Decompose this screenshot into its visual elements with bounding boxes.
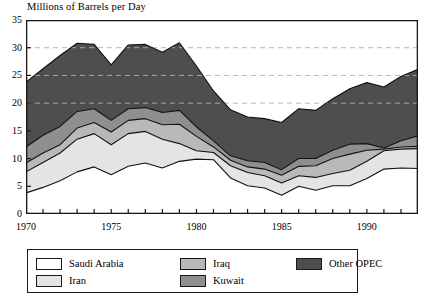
legend-item-iraq: Iraq — [180, 257, 230, 270]
y-tick-label-15: 15 — [0, 126, 22, 136]
legend-swatch-iraq — [180, 258, 206, 270]
plot-area — [26, 20, 418, 214]
x-tick-label-1985: 1985 — [262, 222, 302, 232]
legend-swatch-kuwait — [180, 275, 206, 287]
y-tick-label-25: 25 — [0, 70, 22, 80]
y-tick-label-30: 30 — [0, 43, 22, 53]
legend-item-kuwait: Kuwait — [180, 274, 244, 287]
y-tick-label-0: 0 — [0, 209, 22, 219]
legend-item-iran: Iran — [36, 274, 86, 287]
legend-label-iraq: Iraq — [213, 258, 230, 269]
chart-legend: Saudi ArabiaIranIraqKuwaitOther OPEC — [27, 249, 358, 293]
legend-label-saudi-arabia: Saudi Arabia — [69, 258, 124, 269]
chart-title: Millions of Barrels per Day — [27, 1, 146, 13]
stacked-area-plot — [26, 20, 418, 214]
legend-swatch-other-opec — [296, 258, 322, 270]
legend-label-other-opec: Other OPEC — [329, 258, 382, 269]
y-tick-label-20: 20 — [0, 98, 22, 108]
legend-item-saudi-arabia: Saudi Arabia — [36, 257, 124, 270]
legend-swatch-iran — [36, 275, 62, 287]
y-tick-label-5: 5 — [0, 181, 22, 191]
legend-label-iran: Iran — [69, 275, 86, 286]
x-tick-label-1990: 1990 — [347, 222, 387, 232]
legend-swatch-saudi-arabia — [36, 258, 62, 270]
x-tick-label-1975: 1975 — [91, 222, 131, 232]
chart-figure: Millions of Barrels per Day 051015202530… — [0, 0, 433, 296]
x-tick-label-1980: 1980 — [176, 222, 216, 232]
y-tick-label-35: 35 — [0, 15, 22, 25]
y-tick-label-10: 10 — [0, 154, 22, 164]
legend-item-other-opec: Other OPEC — [296, 257, 382, 270]
x-tick-label-1970: 1970 — [6, 222, 46, 232]
legend-label-kuwait: Kuwait — [213, 275, 244, 286]
